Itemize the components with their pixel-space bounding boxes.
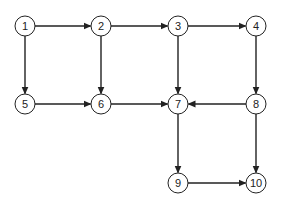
node-label: 9	[175, 177, 181, 189]
node-6: 6	[91, 94, 111, 114]
node-label: 8	[253, 98, 259, 110]
node-2: 2	[91, 16, 111, 36]
node-4: 4	[246, 16, 266, 36]
edges-layer	[25, 26, 256, 183]
node-label: 7	[175, 98, 181, 110]
node-5: 5	[15, 94, 35, 114]
node-8: 8	[246, 94, 266, 114]
node-label: 2	[98, 20, 104, 32]
node-3: 3	[168, 16, 188, 36]
node-label: 6	[98, 98, 104, 110]
node-label: 4	[253, 20, 259, 32]
graph-canvas: 12345678910	[0, 0, 281, 205]
node-label: 10	[250, 177, 262, 189]
node-10: 10	[246, 173, 266, 193]
node-label: 1	[22, 20, 28, 32]
node-label: 3	[175, 20, 181, 32]
node-1: 1	[15, 16, 35, 36]
node-label: 5	[22, 98, 28, 110]
node-9: 9	[168, 173, 188, 193]
node-7: 7	[168, 94, 188, 114]
